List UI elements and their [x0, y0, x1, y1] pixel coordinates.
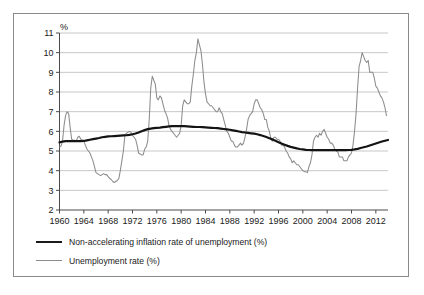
chart-plot-container: 111098765432 196019641968197219761980198… [14, 14, 408, 229]
y-tick-label: 3 [48, 186, 53, 196]
unemployment-nairu-line-chart: 111098765432 196019641968197219761980198… [14, 14, 408, 229]
y-tick-label: 7 [48, 107, 53, 117]
y-tick-label: 9 [48, 68, 53, 78]
y-axis-tick-labels: 111098765432 [43, 28, 53, 215]
y-tick-label: 4 [48, 166, 53, 176]
series-line-unemployment [60, 39, 387, 183]
x-tick-label: 1980 [171, 216, 191, 226]
x-tick-label: 1988 [220, 216, 240, 226]
y-tick-label: 8 [48, 87, 53, 97]
y-tick-label: 10 [43, 48, 53, 58]
x-tick-label: 2012 [366, 216, 386, 226]
x-tick-label: 1960 [49, 216, 69, 226]
y-tick-label: 6 [48, 127, 53, 137]
y-tick-label: 2 [48, 205, 53, 215]
legend-line-swatch-unemployment [36, 260, 62, 261]
series-line-nairu [60, 126, 389, 150]
x-tick-label: 1964 [74, 216, 94, 226]
x-axis-tick-labels: 1960196419681972197619801984198819921996… [49, 216, 385, 226]
x-tick-label: 1984 [195, 216, 215, 226]
legend-label-unemployment: Unemployment rate (%) [69, 256, 160, 266]
legend-item-nairu: Non-accelerating inflation rate of unemp… [36, 232, 396, 251]
legend-label-nairu: Non-accelerating inflation rate of unemp… [69, 237, 267, 247]
legend-item-unemployment: Unemployment rate (%) [36, 251, 396, 270]
legend-line-swatch-nairu [36, 241, 62, 243]
y-axis-unit-label: % [60, 22, 68, 32]
x-tick-label: 1996 [268, 216, 288, 226]
y-axis [56, 33, 60, 210]
x-tick-label: 2008 [341, 216, 361, 226]
x-tick-label: 1992 [244, 216, 264, 226]
x-tick-label: 1972 [122, 216, 142, 226]
chart-figure: 111098765432 196019641968197219761980198… [13, 13, 409, 277]
x-tick-label: 2004 [317, 216, 337, 226]
y-tick-label: 5 [48, 146, 53, 156]
grid-lines [60, 33, 389, 190]
y-tick-label: 11 [44, 28, 53, 38]
x-axis [60, 210, 389, 214]
data-series-group [60, 39, 389, 183]
chart-legend: Non-accelerating inflation rate of unemp… [36, 232, 396, 270]
x-tick-label: 1976 [147, 216, 167, 226]
x-tick-label: 2000 [293, 216, 313, 226]
x-tick-label: 1968 [98, 216, 118, 226]
